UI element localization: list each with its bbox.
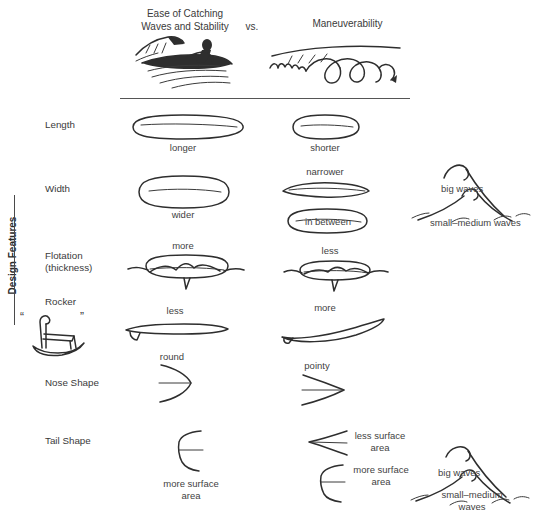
row-label-tail-shape: Tail Shape (45, 435, 91, 447)
caption-tail-right-less-line1: less surface (350, 430, 410, 442)
caption-rocker-left: less (135, 305, 215, 317)
flat-board-profile-icon (122, 319, 232, 341)
infographic-canvas: Ease of Catching Waves and Stability vs.… (0, 0, 535, 516)
rocker-quote-right: ” (80, 310, 84, 324)
header-left-title: Ease of Catching Waves and Stability (120, 8, 250, 33)
caption-flotation-left: more (143, 240, 223, 252)
row-label-width: Width (45, 183, 70, 195)
swallow-tail-icon (305, 428, 353, 458)
caption-tail-left-line2: area (148, 490, 234, 502)
caption-flotation-right: less (290, 245, 370, 257)
row-label-flotation-line1: Flotation (45, 250, 92, 262)
row-label-flotation-line2: (thickness) (45, 262, 92, 274)
caption-nose-right: pointy (282, 360, 352, 372)
caption-tail-left-line1: more surface (148, 478, 234, 490)
caption-tail-right-more: more surface area (350, 464, 412, 487)
axis-rule (14, 195, 15, 325)
round-nose-icon (155, 362, 203, 404)
square-tail-icon-left (165, 428, 211, 474)
header-divider (120, 98, 410, 99)
wave-lower-big-label: big waves (438, 467, 480, 479)
caption-width-left: wider (143, 209, 223, 221)
wave-upper-big-label: big waves (441, 183, 483, 195)
header-vs-separator: vs. (232, 21, 272, 34)
rocker-quote-left: “ (20, 310, 24, 324)
caption-length-left: longer (143, 142, 223, 154)
header-left-title-line1: Ease of Catching (120, 8, 250, 21)
caption-tail-right-less: less surface area (350, 430, 410, 453)
wave-lower-small-label: small–medium waves (424, 489, 520, 512)
pointy-nose-icon (300, 372, 352, 408)
caption-length-right: shorter (285, 142, 365, 154)
caption-width-right-narrower: narrower (285, 166, 365, 178)
wave-lower-small-label-line1: small–medium (424, 489, 520, 501)
wide-surfboard-outline-icon (133, 172, 235, 212)
caption-tail-right-more-line1: more surface (350, 464, 412, 476)
caption-tail-left: more surface area (148, 478, 234, 501)
design-features-label: Design Features (7, 196, 18, 316)
thin-board-floating-icon (282, 258, 392, 292)
narrow-surfboard-outline-icon (279, 180, 373, 200)
row-label-rocker: Rocker (45, 296, 76, 308)
caption-rocker-right: more (285, 302, 365, 314)
caption-tail-right-more-line2: area (350, 476, 412, 488)
caption-width-right-in-between: in between (283, 216, 373, 228)
row-label-length: Length (45, 119, 75, 131)
thick-board-floating-icon (124, 252, 246, 290)
design-features-axis: Design Features (0, 195, 16, 325)
curved-board-profile-icon (278, 317, 388, 345)
short-surfboard-outline-icon (285, 112, 365, 142)
long-surfboard-outline-icon (119, 112, 247, 142)
caption-tail-right-less-line2: area (350, 442, 410, 454)
row-label-flotation: Flotation (thickness) (45, 250, 92, 274)
square-tail-icon-right (305, 462, 351, 504)
caption-nose-left: round (137, 351, 207, 363)
surfer-riding-wave-icon (128, 33, 240, 91)
header-right-title: Maneuverability (280, 18, 415, 31)
winding-path-arrow-icon (266, 42, 406, 88)
wave-lower-small-label-line2: waves (424, 501, 520, 513)
row-label-nose-shape: Nose Shape (45, 377, 99, 389)
header-left-title-line2: Waves and Stability (120, 21, 250, 34)
wave-upper-small-label: small–medium waves (430, 217, 521, 229)
